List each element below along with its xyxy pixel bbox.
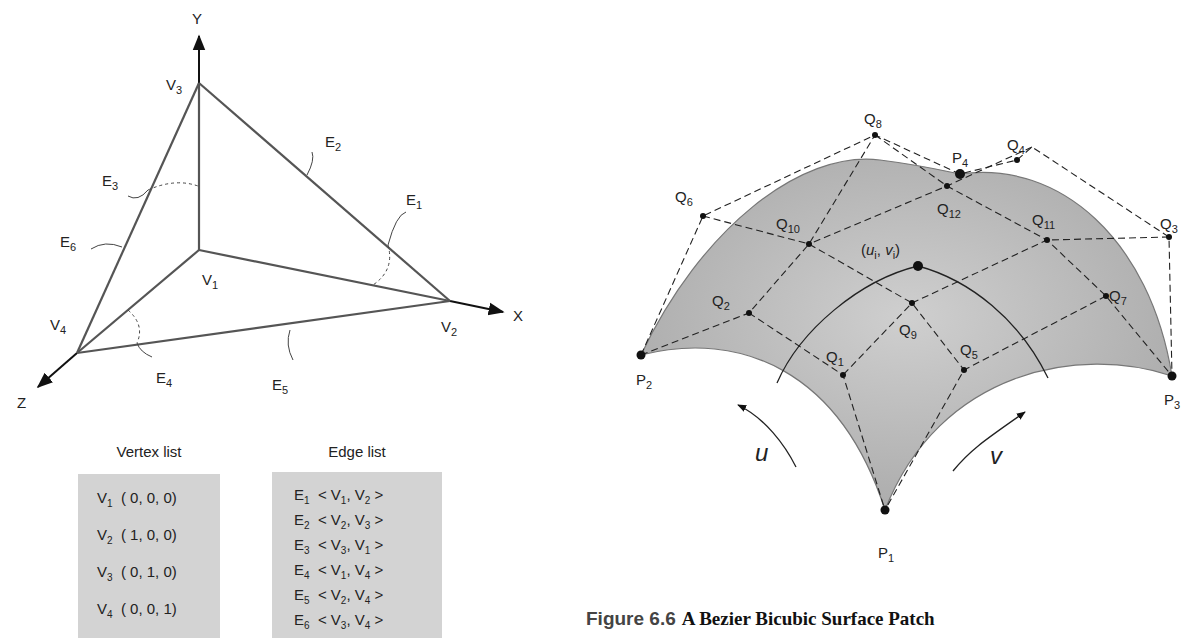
edge-label-e5: E5 <box>272 376 288 396</box>
point-uv <box>913 261 923 271</box>
vertex-row: V4 ( 0, 0, 1) <box>97 600 177 620</box>
point-q10 <box>806 241 812 247</box>
edge-row: E3 < V3, V1 > <box>294 536 383 556</box>
edge-row: E4 < V1, V4 > <box>294 561 383 581</box>
label-p2: P2 <box>636 371 652 391</box>
point-q4 <box>1014 157 1020 163</box>
point-q1 <box>840 372 846 378</box>
vertex-list-title: Vertex list <box>78 443 220 460</box>
edge-row: E6 < V3, V4 > <box>294 611 383 631</box>
x-axis-label: X <box>513 307 523 324</box>
tetrahedron-diagram: Y X Z V3 V1 V2 V4 E1 E2 E3 E4 E5 E6 <box>17 10 523 411</box>
edge-row: E1 < V1, V2 > <box>294 486 383 506</box>
vertex-label-v1: V1 <box>202 271 218 291</box>
edge-list-table: E1 < V1, V2 > E2 < V2, V3 > E3 < V3, V1 … <box>272 472 442 638</box>
z-axis-label: Z <box>17 394 26 411</box>
point-q11 <box>1044 237 1050 243</box>
edge-label-e1: E1 <box>406 191 422 211</box>
edge-row: E5 < V2, V4 > <box>294 586 383 606</box>
label-q6: Q6 <box>675 188 693 208</box>
figure-title: A Bezier Bicubic Surface Patch <box>682 608 935 629</box>
vertex-list-table: V1 ( 0, 0, 0) V2 ( 1, 0, 0) V3 ( 0, 1, 0… <box>78 474 220 638</box>
point-q12 <box>944 183 950 189</box>
label-q8: Q8 <box>864 110 882 130</box>
vertex-row: V1 ( 0, 0, 0) <box>97 489 177 509</box>
edge-label-e6: E6 <box>60 233 76 253</box>
z-axis-arrow <box>38 353 77 387</box>
edge-e6 <box>77 83 199 353</box>
edge-list-title: Edge list <box>272 443 442 460</box>
label-q4: Q4 <box>1007 136 1025 156</box>
label-p1: P1 <box>878 544 894 564</box>
label-q3: Q3 <box>1160 215 1178 235</box>
point-q9 <box>909 300 915 306</box>
point-p3 <box>1168 372 1177 381</box>
edge-label-e4: E4 <box>156 369 172 389</box>
vertex-label-v4: V4 <box>50 316 66 336</box>
v-direction-label: v <box>990 442 1004 469</box>
figure-caption: Figure 6.6A Bezier Bicubic Surface Patch <box>586 608 935 630</box>
point-q6 <box>700 213 706 219</box>
point-p4 <box>955 169 965 179</box>
bezier-surface-diagram: P1 P2 P3 P4 Q1 Q2 Q3 Q4 Q5 Q6 Q7 Q8 Q9 Q… <box>636 110 1180 564</box>
point-q8 <box>872 132 878 138</box>
edge-e5 <box>77 301 450 353</box>
figure-number: Figure 6.6 <box>586 608 676 629</box>
label-p4: P4 <box>952 149 968 169</box>
point-p1 <box>881 506 890 515</box>
vertex-label-v3: V3 <box>166 76 182 96</box>
u-direction-label: u <box>755 439 768 466</box>
edge-e1 <box>199 250 450 301</box>
edge-label-e2: E2 <box>325 133 341 153</box>
edge-label-e3: E3 <box>102 172 118 192</box>
point-q2 <box>746 310 752 316</box>
edge-row: E2 < V2, V3 > <box>294 511 383 531</box>
vertex-row: V2 ( 1, 0, 0) <box>97 526 177 546</box>
vertex-row: V3 ( 0, 1, 0) <box>97 563 177 583</box>
y-axis-label: Y <box>192 10 202 27</box>
v-direction-arrow <box>953 412 1025 471</box>
point-q5 <box>961 367 967 373</box>
label-p3: P3 <box>1164 391 1180 411</box>
vertex-label-v2: V2 <box>441 318 457 338</box>
x-axis-arrow <box>450 301 503 312</box>
point-p2 <box>637 351 646 360</box>
